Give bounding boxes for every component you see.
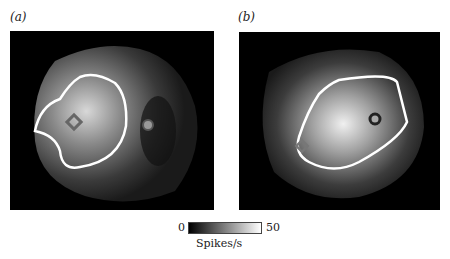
- colorbar-unit: Spikes/s: [196, 237, 242, 250]
- ring-marker: [370, 114, 380, 124]
- dot-marker: [143, 120, 153, 130]
- response-field: [263, 50, 424, 199]
- panel-a-heatmap: [10, 31, 214, 210]
- colorbar: [188, 222, 262, 234]
- panel-a-label: (a): [10, 10, 27, 24]
- colorbar-min: 0: [178, 221, 185, 234]
- panel-b-heatmap: [239, 32, 440, 210]
- panel-b-label: (b): [238, 10, 255, 24]
- colorbar-max: 50: [266, 221, 280, 234]
